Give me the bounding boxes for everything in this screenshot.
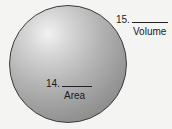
area-answer-blank[interactable] xyxy=(62,78,92,87)
volume-caption: Volume xyxy=(133,27,166,37)
volume-answer-blank[interactable] xyxy=(132,14,168,23)
volume-label: 15. Volume xyxy=(116,14,168,25)
question-number-14: 14. xyxy=(46,79,60,89)
sphere-figure: 15. Volume 14. Area xyxy=(0,0,172,129)
sphere-shape xyxy=(9,5,127,123)
area-label: 14. Area xyxy=(46,78,92,89)
area-caption: Area xyxy=(64,91,85,101)
question-number-15: 15. xyxy=(116,15,130,25)
